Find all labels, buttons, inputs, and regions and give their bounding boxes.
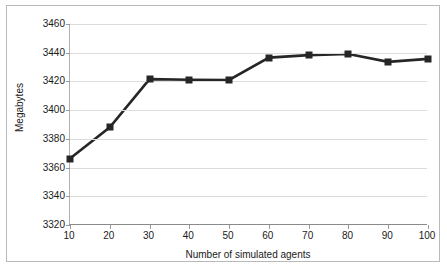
- data-point-marker: [345, 51, 352, 58]
- data-point-marker: [106, 124, 113, 131]
- data-point-marker: [265, 54, 272, 61]
- x-tick-label: 80: [342, 230, 353, 241]
- y-tick-mark: [66, 139, 70, 140]
- x-tick-label: 20: [103, 230, 114, 241]
- data-point-marker: [226, 76, 233, 83]
- y-tick-label: 3360: [43, 163, 65, 173]
- gridline-horizontal: [70, 24, 427, 25]
- y-tick-mark: [66, 110, 70, 111]
- gridline-horizontal: [70, 81, 427, 82]
- chart-figure: 33203340336033803400342034403460 1020304…: [0, 0, 447, 272]
- gridline-horizontal: [70, 53, 427, 54]
- chart-outer-border: 33203340336033803400342034403460 1020304…: [6, 5, 440, 262]
- x-tick-label: 30: [143, 230, 154, 241]
- data-point-marker: [67, 155, 74, 162]
- gridline-horizontal: [70, 196, 427, 197]
- x-tick-mark: [309, 225, 310, 229]
- data-point-marker: [385, 58, 392, 65]
- y-tick-label: 3320: [43, 220, 65, 230]
- x-tick-label: 40: [183, 230, 194, 241]
- x-tick-mark: [189, 225, 190, 229]
- y-tick-label: 3400: [43, 105, 65, 115]
- x-tick-label: 100: [419, 230, 436, 241]
- x-tick-mark: [70, 225, 71, 229]
- plot-area: [69, 24, 427, 225]
- x-tick-mark: [388, 225, 389, 229]
- x-tick-mark: [428, 225, 429, 229]
- data-point-marker: [146, 76, 153, 83]
- y-axis-tick-labels: 33203340336033803400342034403460: [31, 24, 65, 225]
- x-tick-mark: [150, 225, 151, 229]
- x-tick-mark: [348, 225, 349, 229]
- x-tick-label: 50: [223, 230, 234, 241]
- y-tick-mark: [66, 24, 70, 25]
- x-tick-label: 90: [382, 230, 393, 241]
- x-tick-mark: [110, 225, 111, 229]
- x-tick-label: 10: [63, 230, 74, 241]
- data-point-marker: [425, 55, 432, 62]
- gridline-horizontal: [70, 110, 427, 111]
- y-tick-mark: [66, 53, 70, 54]
- y-tick-label: 3340: [43, 191, 65, 201]
- x-axis-tick-labels: 102030405060708090100: [69, 230, 427, 244]
- y-tick-label: 3380: [43, 134, 65, 144]
- x-axis-title: Number of simulated agents: [69, 249, 427, 260]
- y-tick-label: 3420: [43, 76, 65, 86]
- x-tick-label: 60: [262, 230, 273, 241]
- y-tick-label: 3440: [43, 48, 65, 58]
- x-tick-label: 70: [302, 230, 313, 241]
- gridline-horizontal: [70, 139, 427, 140]
- data-point-marker: [186, 76, 193, 83]
- y-tick-mark: [66, 81, 70, 82]
- data-point-marker: [305, 52, 312, 59]
- y-axis-title: Megabytes: [14, 58, 25, 158]
- gridline-horizontal: [70, 168, 427, 169]
- y-tick-mark: [66, 196, 70, 197]
- data-series-line: [70, 24, 428, 225]
- y-tick-label: 3460: [43, 19, 65, 29]
- x-tick-mark: [229, 225, 230, 229]
- x-tick-mark: [269, 225, 270, 229]
- y-tick-mark: [66, 168, 70, 169]
